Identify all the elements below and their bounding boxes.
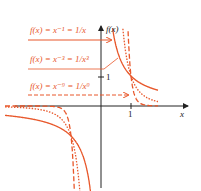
label-x-minus-3: f(x) = x⁻³ = 1/x³ <box>30 55 89 64</box>
label-x-minus-1: f(x) = x⁻¹ = 1/x <box>30 26 86 35</box>
curve-dotted <box>5 107 80 191</box>
y-tick-label: 1 <box>106 73 111 82</box>
curve-solid <box>113 28 158 90</box>
curves <box>5 28 158 191</box>
y-axis-label: f(x) <box>106 25 119 34</box>
x-axis-label: x <box>180 110 184 119</box>
label-x-minus-9: f(x) = x⁻⁹ = 1/x⁹ <box>30 82 90 91</box>
curve-dashed <box>128 31 158 106</box>
curve-dashed <box>5 106 74 191</box>
x-tick-label: 1 <box>128 110 133 119</box>
